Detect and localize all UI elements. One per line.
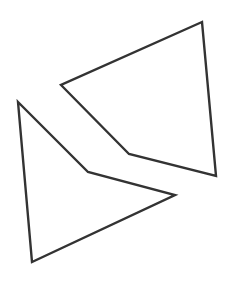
diagram-canvas: [0, 0, 227, 281]
upper-quadrilateral: [61, 22, 216, 176]
lower-quadrilateral: [18, 102, 175, 262]
